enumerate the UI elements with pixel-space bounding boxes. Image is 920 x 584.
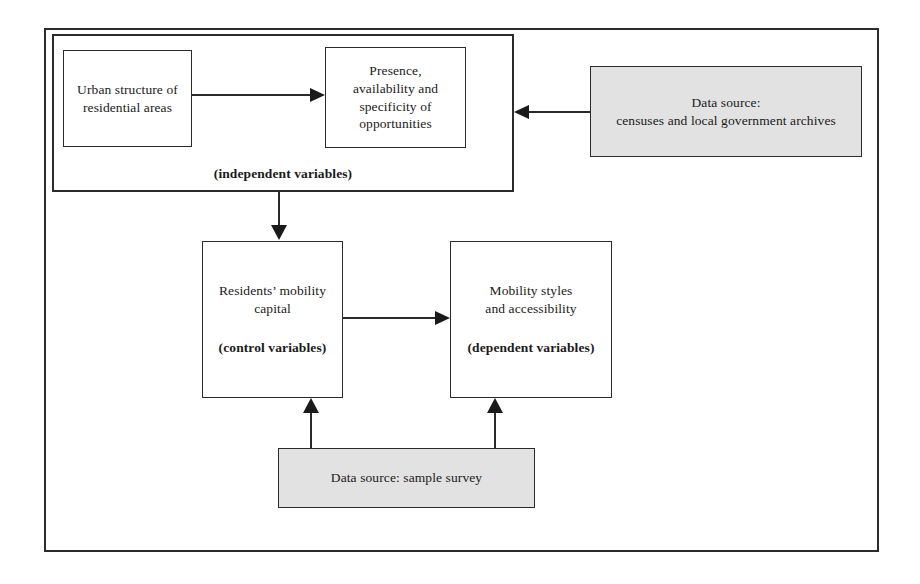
arrow-survey-to-mobility-styles — [487, 398, 503, 448]
arrow-survey-to-residents — [303, 398, 319, 448]
arrow-censuses-to-group — [514, 105, 590, 119]
arrow-group-to-residents — [271, 192, 287, 240]
arrow-residents-to-mobility-styles — [343, 311, 450, 325]
connector-layer — [0, 0, 920, 584]
diagram-canvas: (independent variables) Urban structure … — [0, 0, 920, 584]
arrow-urban-to-opportunities — [192, 88, 325, 102]
